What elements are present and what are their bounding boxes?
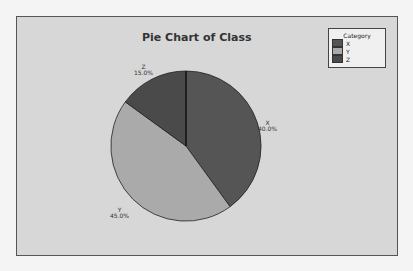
- label-y: Y45.0%: [110, 207, 129, 219]
- legend-item-z: Z: [329, 55, 385, 63]
- legend: Category X Y Z: [328, 28, 386, 68]
- legend-title: Category: [329, 32, 385, 39]
- label-x: X40.0%: [258, 120, 277, 132]
- legend-item-x: X: [329, 39, 385, 47]
- legend-item-y: Y: [329, 47, 385, 55]
- label-z: Z15.0%: [134, 64, 153, 76]
